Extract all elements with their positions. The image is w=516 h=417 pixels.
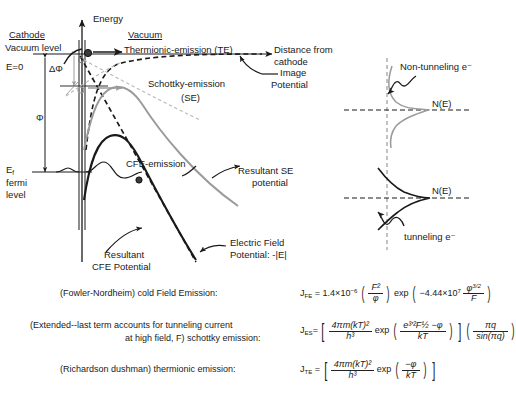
eq2-lhs: JES <box>300 325 313 335</box>
eq1-lhs: JFE <box>300 288 312 298</box>
thermionic-emission-label: Thermionic-emission (TE) <box>124 45 233 56</box>
eq1-paren-open: ( <box>361 288 364 299</box>
eq1-exp-coeff: −4.44×107 <box>419 288 460 298</box>
resultant-se-leader <box>212 166 240 178</box>
eq2-exp-word: exp <box>375 325 390 335</box>
resultant-se-label-line2: potential <box>252 178 288 189</box>
distance-axis-label-line1: Distance from <box>274 45 333 56</box>
electric-field-leader <box>200 245 226 252</box>
image-potential-label-line2: Potential <box>271 80 308 91</box>
equation-1-expression: JFE = 1.4×10−6 ( F² φ ) exp ( −4.44×107 … <box>300 283 492 304</box>
non-tunneling-label: Non-tunneling e⁻ <box>400 62 472 73</box>
eq1-paren2-open: ( <box>412 288 415 299</box>
non-tunneling-leader <box>388 76 416 94</box>
right-panel-axis <box>344 58 470 250</box>
electric-field-label-line1: Electric Field <box>230 238 284 249</box>
equation-1-label: (Fowler-Nordheim) cold Field Emission: <box>60 288 218 298</box>
equation-3-expression: JTE = [ 4πm(kT)² h³ exp ( −φ kT ) ] <box>300 360 436 380</box>
e-zero-label: E=0 <box>6 62 23 73</box>
resultant-se-label-line1: Resultant SE <box>238 166 293 177</box>
schottky-emission-label-line1: Schottky-emission <box>148 79 225 90</box>
image-potential-leader <box>240 56 278 74</box>
tunneling-leader <box>378 212 404 226</box>
electric-field-label-line2: Potential: -|E| <box>230 250 287 261</box>
eq1-paren-close: ) <box>387 288 390 299</box>
eq2-frac2: e³′²F½ −φ kT <box>400 321 445 341</box>
eq1-paren2-close: ) <box>488 288 491 299</box>
axis-label-energy: Energy <box>93 14 123 25</box>
equation-2-expression: JES= [ 4πm(kT)² h³ exp ( e³′²F½ −φ kT ) … <box>300 321 516 341</box>
eq1-frac1: F² φ <box>368 283 383 303</box>
eq3-paren-open: ( <box>395 364 398 375</box>
equation-2-label-line2: at high field, F) schottky emission: <box>125 333 261 343</box>
equation-3-label: (Richardson dushman) thermionic emission… <box>60 364 236 374</box>
eq2-equals: = <box>313 325 318 335</box>
vacuum-level-label: Vacuum level <box>5 43 61 54</box>
eq2-frac3: πq sin(πq) <box>473 321 508 341</box>
fermi-level-line3: level <box>6 190 26 201</box>
eq1-coefficient: 1.4×10−6 <box>323 288 358 298</box>
eq3-lhs: JTE <box>300 364 312 374</box>
eq3-bracket-open: [ <box>324 364 327 377</box>
resultant-cfe-label-line2: CFE Potential <box>92 262 151 273</box>
eq3-bracket-close: ] <box>432 364 435 377</box>
ne-label-top: N(E) <box>432 99 452 110</box>
eq3-exp-word: exp <box>377 364 392 374</box>
eq3-frac1: 4πm(kT)² h³ <box>331 360 375 380</box>
tunneling-distribution <box>378 168 430 230</box>
equation-2-label-line1: (Extended--last term accounts for tunnel… <box>30 320 233 330</box>
delta-phi-label: ΔΦ <box>49 64 63 75</box>
eq2-bracket-open: [ <box>322 325 325 338</box>
eq2-paren2-close: ) <box>512 325 515 336</box>
resultant-cfe-label-line1: Resultant <box>104 250 144 261</box>
schottky-emission-label-line2: (SE) <box>181 93 200 104</box>
tunneling-label: tunneling e⁻ <box>404 232 456 243</box>
eq2-paren2-open: ( <box>466 325 469 336</box>
image-potential-label-line1: Image <box>280 68 306 79</box>
fermi-level-line2: fermi <box>6 178 27 189</box>
region-label-vacuum: Vacuum <box>128 30 162 41</box>
eq2-paren-close: ) <box>450 325 453 336</box>
ne-label-bottom: N(E) <box>432 186 452 197</box>
eq3-frac2: −φ kT <box>402 360 419 380</box>
eq3-paren-close: ) <box>424 364 427 375</box>
eq1-exp-word: exp <box>394 288 409 298</box>
resultant-se-potential <box>84 87 238 206</box>
non-tunneling-distribution <box>389 66 428 148</box>
eq1-frac2: φ3/2 F <box>463 283 483 304</box>
fermi-level-symbol: Ef <box>6 165 14 176</box>
eq1-equals: = <box>315 288 320 298</box>
cfe-emission-label: CFE-emission <box>126 159 186 170</box>
eq2-frac1: 4πm(kT)² h³ <box>329 321 373 341</box>
phi-label: Φ <box>36 113 44 124</box>
gray-dashed-field-lines <box>66 60 200 120</box>
region-label-cathode: Cathode <box>9 30 45 41</box>
eq2-bracket-close: ] <box>458 325 461 338</box>
eq3-equals: = <box>315 364 320 374</box>
eq2-paren-open: ( <box>393 325 396 336</box>
